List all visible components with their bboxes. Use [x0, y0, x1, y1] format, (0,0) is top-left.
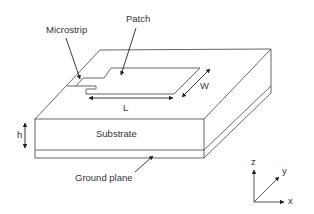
x-axis-label: x	[288, 196, 293, 206]
y-axis-arrow	[254, 177, 279, 202]
substrate-label: Substrate	[96, 129, 137, 139]
patch-element	[67, 68, 200, 94]
ground-plane-label: Ground plane	[75, 173, 133, 183]
patch-label: Patch	[126, 14, 150, 24]
y-axis-label: y	[282, 166, 287, 176]
microstrip-pointer-arrow	[66, 38, 80, 79]
width-label: W	[200, 81, 209, 91]
ground-plane-layer	[35, 86, 271, 150]
coordinate-axes	[254, 170, 284, 202]
length-label: L	[123, 103, 128, 113]
z-axis-label: z	[251, 157, 256, 167]
microstrip-label: Microstrip	[46, 25, 87, 35]
height-label: h	[17, 130, 22, 140]
substrate-block	[35, 49, 271, 158]
